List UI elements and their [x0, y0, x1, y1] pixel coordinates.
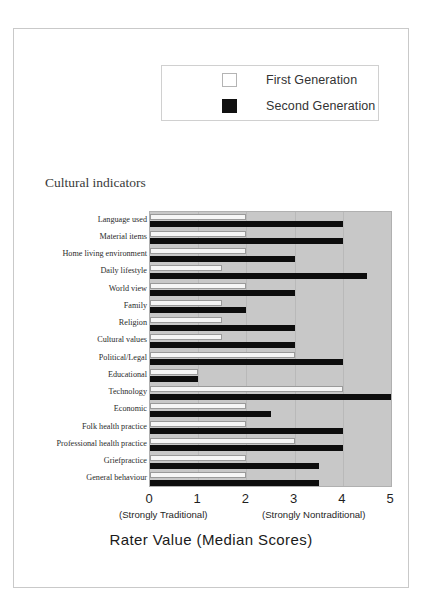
bar-second-generation: [150, 428, 343, 434]
bar-first-generation: [150, 283, 246, 289]
bar-second-generation: [150, 376, 198, 382]
plot-area: [149, 211, 392, 487]
category-label: Religion: [29, 319, 147, 327]
bar-first-generation: [150, 317, 222, 323]
category-label: Professional health practice: [29, 440, 147, 448]
x-tick-label: 3: [290, 491, 297, 506]
legend-item-first-generation: First Generation: [162, 67, 378, 93]
y-axis-header: Cultural indicators: [45, 175, 146, 191]
x-tick-label: 2: [242, 491, 249, 506]
category-label: Folk health practice: [29, 423, 147, 431]
x-tick-label: 0: [145, 491, 152, 506]
white-square-swatch-icon: [222, 73, 237, 87]
x-tick-label: 4: [338, 491, 345, 506]
x-axis-caption-right: (Strongly Nontraditional): [262, 509, 365, 520]
bar-first-generation: [150, 300, 222, 306]
bar-second-generation: [150, 273, 367, 279]
bar-chart: Language usedMaterial itemsHome living e…: [29, 211, 397, 487]
legend-label-second-generation: Second Generation: [266, 99, 375, 113]
bar-first-generation: [150, 352, 295, 358]
category-label: Family: [29, 302, 147, 310]
bar-first-generation: [150, 472, 246, 478]
bar-first-generation: [150, 248, 246, 254]
figure-frame: First Generation Second Generation Cultu…: [13, 28, 409, 588]
category-label: Material items: [29, 233, 147, 241]
category-label: Language used: [29, 216, 147, 224]
category-label: Technology: [29, 388, 147, 396]
x-axis-ticks: 012345: [149, 491, 395, 509]
category-label-column: Language usedMaterial itemsHome living e…: [29, 211, 149, 487]
bar-second-generation: [150, 445, 343, 451]
bar-second-generation: [150, 238, 343, 244]
legend-label-first-generation: First Generation: [266, 73, 357, 87]
bar-first-generation: [150, 231, 246, 237]
gridline: [343, 212, 344, 486]
category-label: Educational: [29, 371, 147, 379]
bar-second-generation: [150, 342, 295, 348]
bar-first-generation: [150, 265, 222, 271]
bar-second-generation: [150, 325, 295, 331]
chart-legend: First Generation Second Generation: [161, 65, 379, 121]
bar-second-generation: [150, 411, 271, 417]
bar-second-generation: [150, 480, 319, 486]
category-label: Home living environment: [29, 250, 147, 258]
bar-second-generation: [150, 463, 319, 469]
category-label: World view: [29, 285, 147, 293]
bar-first-generation: [150, 438, 295, 444]
category-label: Cultural values: [29, 336, 147, 344]
bar-second-generation: [150, 256, 295, 262]
category-label: Economic: [29, 405, 147, 413]
black-square-swatch-icon: [222, 99, 237, 113]
bar-second-generation: [150, 290, 295, 296]
bar-second-generation: [150, 394, 391, 400]
category-label: Political/Legal: [29, 354, 147, 362]
bar-second-generation: [150, 221, 343, 227]
legend-item-second-generation: Second Generation: [162, 93, 378, 119]
bar-second-generation: [150, 359, 343, 365]
bar-first-generation: [150, 403, 246, 409]
bar-first-generation: [150, 214, 246, 220]
bar-first-generation: [150, 334, 222, 340]
x-tick-label: 5: [386, 491, 393, 506]
x-axis-title: Rater Value (Median Scores): [14, 531, 408, 548]
bar-second-generation: [150, 307, 246, 313]
bar-first-generation: [150, 455, 246, 461]
bar-first-generation: [150, 369, 198, 375]
bar-first-generation: [150, 386, 343, 392]
bar-first-generation: [150, 421, 246, 427]
x-tick-label: 1: [194, 491, 201, 506]
x-axis-caption-left: (Strongly Traditional): [119, 509, 208, 520]
category-label: General behaviour: [29, 474, 147, 482]
category-label: Daily lifestyle: [29, 267, 147, 275]
category-label: Griefpractice: [29, 457, 147, 465]
